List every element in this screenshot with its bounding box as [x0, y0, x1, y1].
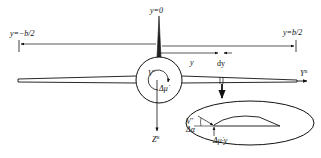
label-axis-z: ZB: [152, 135, 159, 144]
label-delta-alpha: Δα: [185, 125, 196, 134]
label-dy: dy: [217, 59, 225, 68]
label-y-pos-half-span: y=b/2: [282, 28, 302, 37]
label-axis-y: YB: [300, 69, 307, 78]
label-y-zero: y=0: [149, 6, 163, 15]
aircraft-roll-diagram: y=0 y=−b/2 y=b/2 y dy YB ZB V* Δμ̇ V* Δα…: [0, 0, 321, 158]
label-y-neg-half-span: y=−b/2: [9, 29, 35, 38]
label-section-roll-term: Δμ̇·y: [212, 136, 228, 145]
fuselage: [136, 57, 182, 103]
left-wing: [18, 76, 136, 83]
vertical-fin: [157, 16, 161, 58]
label-y-distance: y: [189, 58, 194, 67]
right-wing: [182, 76, 297, 83]
